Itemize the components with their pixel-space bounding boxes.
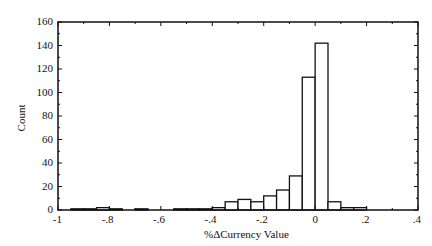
x-axis-label: %ΔCurrency Value: [204, 228, 289, 240]
histogram-bar: [277, 190, 290, 210]
y-tick-label: 140: [37, 39, 54, 51]
histogram-bar: [264, 196, 277, 210]
x-tick-label: -.4: [204, 213, 216, 225]
x-tick-label: .2: [361, 213, 369, 225]
x-tick-label: -.8: [102, 213, 114, 225]
y-tick-label: 40: [42, 156, 53, 168]
y-tick-label: 120: [37, 62, 54, 74]
y-tick-label: 80: [42, 109, 53, 121]
x-tick-label: -1: [53, 213, 62, 225]
axis-ticks: [58, 22, 418, 210]
plot-frame: [58, 22, 418, 210]
histogram-bar: [251, 202, 264, 210]
histogram-bar: [328, 202, 341, 210]
histogram-chart: [0, 0, 432, 246]
histogram-bar: [302, 77, 315, 210]
histogram-bars: [71, 43, 367, 210]
x-tick-label: -.2: [256, 213, 268, 225]
histogram-bar: [289, 176, 302, 210]
histogram-bar: [225, 202, 238, 210]
histogram-bar: [315, 43, 328, 210]
y-tick-label: 100: [37, 86, 54, 98]
x-tick-label: -.6: [153, 213, 165, 225]
y-axis-label: Count: [15, 105, 27, 132]
y-tick-label: 60: [42, 133, 53, 145]
histogram-bar: [238, 199, 251, 210]
y-tick-label: 20: [42, 180, 53, 192]
x-tick-label: 0: [313, 213, 319, 225]
y-tick-label: 160: [37, 15, 54, 27]
x-tick-label: .4: [413, 213, 421, 225]
